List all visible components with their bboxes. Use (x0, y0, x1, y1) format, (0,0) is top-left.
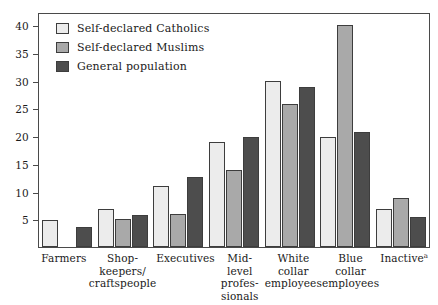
x-axis-label-line: employees (322, 277, 379, 290)
x-axis-label-line: White (265, 252, 322, 265)
bar (98, 209, 114, 247)
x-axis-label-line: sionals (215, 290, 265, 303)
y-axis-tick-mark (33, 109, 38, 110)
x-axis-labels: FarmersShop-keepers/craftspeopleExecutiv… (39, 252, 429, 302)
dark-gray-swatch (56, 61, 69, 72)
bar (320, 137, 336, 247)
bar (132, 215, 148, 247)
x-axis-label-line: Shop- (89, 252, 156, 265)
y-axis-tick-mark (33, 165, 38, 166)
bar (393, 198, 409, 247)
y-axis-tick-mark (33, 82, 38, 83)
legend-item-label: General population (77, 60, 187, 73)
y-axis-tick: 35 (0, 48, 38, 60)
x-axis-label-line: keepers/ (89, 265, 156, 278)
y-axis-tick: 15 (0, 159, 38, 171)
x-axis-label-line: Mid-level (215, 252, 265, 277)
bar (243, 137, 259, 247)
bar (410, 217, 426, 248)
x-axis-label-line: collar (322, 265, 379, 278)
y-axis-tick: 40 (0, 20, 38, 32)
bar (115, 219, 131, 247)
y-axis-tick-mark (33, 193, 38, 194)
x-axis-category-label: Farmers (39, 252, 89, 302)
legend-item-label: Self-declared Muslims (77, 41, 204, 54)
x-axis-label-line: Executives (156, 252, 215, 265)
x-axis-category-label: Shop-keepers/craftspeople (89, 252, 156, 302)
bar (170, 214, 186, 247)
bar-group (373, 14, 429, 247)
y-axis-tick-mark (33, 54, 38, 55)
x-axis-label-line: collar (265, 265, 322, 278)
y-axis-tick: 10 (0, 187, 38, 199)
x-axis-category-label: Inactivea (379, 252, 429, 302)
x-axis-category-label: Whitecollaremployees (265, 252, 322, 302)
bar (153, 186, 169, 247)
bar (226, 170, 242, 247)
bar-group (318, 14, 374, 247)
bar (76, 227, 92, 247)
legend-item: Self-declared Catholics (56, 20, 209, 37)
legend-item: General population (56, 58, 209, 75)
x-axis-label-footnote: a (424, 252, 428, 260)
x-axis-category-label: Bluecollaremployees (322, 252, 379, 302)
grouped-bar-chart: 510152025303540 FarmersShop-keepers/craf… (0, 0, 438, 305)
x-axis-label-line: Inactivea (379, 252, 429, 265)
light-gray-swatch (56, 23, 69, 34)
legend-item-label: Self-declared Catholics (77, 22, 209, 35)
y-axis: 510152025303540 (0, 13, 38, 248)
bar (42, 220, 58, 247)
bar (376, 209, 392, 247)
bar (354, 132, 370, 247)
y-axis-tick-mark (33, 26, 38, 27)
x-axis-label-line: craftspeople (89, 277, 156, 290)
x-axis-label-line: employees (265, 277, 322, 290)
x-axis-category-label: Executives (156, 252, 215, 302)
bar-group (262, 14, 318, 247)
y-axis-tick: 5 (0, 214, 38, 226)
bar (265, 81, 281, 247)
medium-gray-swatch (56, 42, 69, 53)
x-axis-label-line: Farmers (39, 252, 89, 265)
x-axis-label-line: Blue (322, 252, 379, 265)
y-axis-tick: 20 (0, 131, 38, 143)
legend-item: Self-declared Muslims (56, 39, 209, 56)
bar (187, 177, 203, 247)
bar-group (206, 14, 262, 247)
y-axis-tick: 30 (0, 76, 38, 88)
y-axis-tick: 25 (0, 103, 38, 115)
x-axis-label-line: profes- (215, 277, 265, 290)
x-axis-category-label: Mid-levelprofes-sionals (215, 252, 265, 302)
bar (337, 25, 353, 247)
bar (209, 142, 225, 247)
y-axis-tick-mark (33, 220, 38, 221)
y-axis-tick-mark (33, 137, 38, 138)
bar (282, 104, 298, 247)
chart-legend: Self-declared CatholicsSelf-declared Mus… (56, 20, 209, 75)
bar (299, 87, 315, 247)
